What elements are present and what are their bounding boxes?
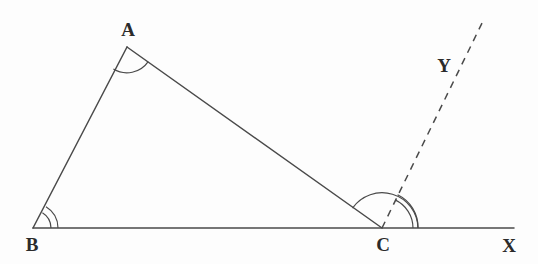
ray-label-y: Y	[437, 56, 451, 75]
angle-mark-b-arc1	[42, 213, 51, 228]
vertex-label-b: B	[26, 235, 39, 254]
ray-label-x: X	[502, 236, 516, 255]
segment-ac	[127, 47, 382, 228]
geometry-figure: A B C X Y	[0, 0, 538, 264]
geometry-canvas	[0, 0, 538, 264]
vertex-label-a: A	[121, 20, 135, 39]
vertex-label-c: C	[376, 235, 390, 254]
segment-ab	[33, 47, 127, 228]
